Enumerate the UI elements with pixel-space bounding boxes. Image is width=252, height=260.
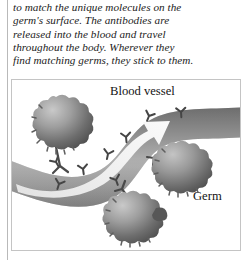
page-edge-rule bbox=[7, 0, 8, 260]
label-blood-vessel: Blood vessel bbox=[110, 84, 175, 98]
antibody-y-shape-icon bbox=[102, 149, 113, 160]
label-germ: Germ bbox=[193, 189, 222, 203]
body-text-line: find matching germs, they stick to them. bbox=[13, 54, 218, 67]
germ-body bbox=[32, 95, 93, 150]
germ-body bbox=[151, 141, 212, 194]
illustration-frame: Blood vessel Germ bbox=[11, 79, 241, 251]
germ-sphere-icon bbox=[32, 95, 93, 173]
body-text-block: to match the unique molecules on the ger… bbox=[13, 1, 218, 67]
body-text-line: throughout the body. Wherever they bbox=[13, 41, 218, 54]
page-root: to match the unique molecules on the ger… bbox=[0, 0, 252, 260]
body-text-line: germ's surface. The antibodies are bbox=[13, 14, 218, 27]
illustration-canvas: Blood vessel Germ bbox=[12, 80, 240, 250]
body-text-line: released into the blood and travel bbox=[13, 28, 218, 41]
body-text-line: to match the unique molecules on the bbox=[13, 1, 218, 14]
antibody-y-shape-icon bbox=[78, 164, 88, 174]
